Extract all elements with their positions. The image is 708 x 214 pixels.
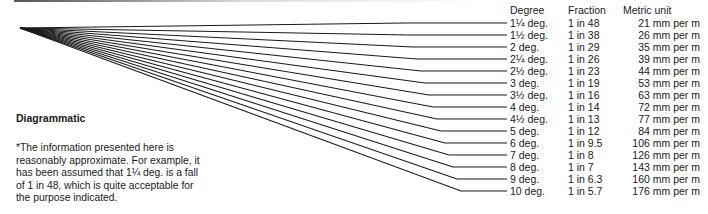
table-row: 3½ deg.1 in 1663 mm per m (0, 89, 708, 101)
degree-cell: 5 deg. (510, 125, 539, 137)
metric-cell: 106 mm per m (632, 137, 700, 149)
table-row: 1½ deg.1 in 3826 mm per m (0, 29, 708, 41)
table-row: 4 deg.1 in 1472 mm per m (0, 101, 708, 113)
metric-cell: 39 mm per m (638, 53, 700, 65)
fraction-cell: 1 in 26 (568, 53, 600, 65)
metric-cell: 63 mm per m (638, 89, 700, 101)
metric-cell: 160 mm per m (632, 173, 700, 185)
degree-cell: 9 deg. (510, 173, 539, 185)
fraction-cell: 1 in 12 (568, 125, 600, 137)
degree-cell: 7 deg. (510, 149, 539, 161)
metric-cell: 53 mm per m (638, 77, 700, 89)
degree-cell: 4 deg. (510, 101, 539, 113)
degree-cell: 3 deg. (510, 77, 539, 89)
metric-cell: 77 mm per m (638, 113, 700, 125)
fraction-cell: 1 in 7 (568, 161, 594, 173)
metric-cell: 143 mm per m (632, 161, 700, 173)
table-row: 1¼ deg.1 in 4821 mm per m (0, 17, 708, 29)
fraction-cell: 1 in 19 (568, 77, 600, 89)
fraction-cell: 1 in 14 (568, 101, 600, 113)
header-degree: Degree (510, 4, 544, 16)
metric-cell: 72 mm per m (638, 101, 700, 113)
fraction-cell: 1 in 29 (568, 41, 600, 53)
footnote: *The information presented here is reaso… (16, 142, 201, 205)
table-row: 3 deg.1 in 1953 mm per m (0, 77, 708, 89)
table-row: 2 deg.1 in 2935 mm per m (0, 41, 708, 53)
degree-cell: 10 deg. (510, 185, 545, 197)
metric-cell: 21 mm per m (638, 17, 700, 29)
metric-cell: 35 mm per m (638, 41, 700, 53)
degree-cell: 3½ deg. (510, 89, 548, 101)
fraction-cell: 1 in 38 (568, 29, 600, 41)
degree-cell: 2¼ deg. (510, 53, 548, 65)
table-row: 4½ deg.1 in 1377 mm per m (0, 113, 708, 125)
degree-cell: 2½ deg. (510, 65, 548, 77)
degree-cell: 1½ deg. (510, 29, 548, 41)
header-metric: Metric unit (623, 4, 671, 16)
fraction-cell: 1 in 23 (568, 65, 600, 77)
degree-cell: 4½ deg. (510, 113, 548, 125)
metric-cell: 176 mm per m (632, 185, 700, 197)
diagram-title: Diagrammatic (16, 112, 85, 124)
degree-cell: 2 deg. (510, 41, 539, 53)
degree-cell: 6 deg. (510, 137, 539, 149)
degree-cell: 1¼ deg. (510, 17, 548, 29)
metric-cell: 84 mm per m (638, 125, 700, 137)
fraction-cell: 1 in 48 (568, 17, 600, 29)
table-row: 2½ deg.1 in 2344 mm per m (0, 65, 708, 77)
metric-cell: 126 mm per m (632, 149, 700, 161)
fraction-cell: 1 in 5.7 (568, 185, 602, 197)
degree-cell: 8 deg. (510, 161, 539, 173)
header-fraction: Fraction (568, 4, 606, 16)
fraction-cell: 1 in 6.3 (568, 173, 602, 185)
table-row: 5 deg.1 in 1284 mm per m (0, 125, 708, 137)
fraction-cell: 1 in 9.5 (568, 137, 602, 149)
fraction-cell: 1 in 8 (568, 149, 594, 161)
fraction-cell: 1 in 16 (568, 89, 600, 101)
table-row: 2¼ deg.1 in 2639 mm per m (0, 53, 708, 65)
metric-cell: 26 mm per m (638, 29, 700, 41)
fraction-cell: 1 in 13 (568, 113, 600, 125)
metric-cell: 44 mm per m (638, 65, 700, 77)
